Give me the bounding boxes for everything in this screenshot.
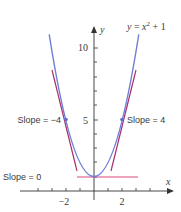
y-tick-label-5: 5 bbox=[83, 115, 88, 126]
x-axis bbox=[20, 188, 174, 194]
chart: 10 5 −2 2 y x y = x2 + 1 Slope = −4 Slop… bbox=[0, 0, 181, 212]
x-tick-label-neg2: −2 bbox=[59, 196, 70, 207]
annotation-slope-0: Slope = 0 bbox=[3, 172, 41, 182]
annotation-slope-neg4: Slope = −4 bbox=[17, 115, 61, 125]
y-tick-label-10: 10 bbox=[78, 42, 88, 53]
curve-equation-label: y = x2 + 1 bbox=[126, 20, 166, 32]
annotation-slope-4: Slope = 4 bbox=[127, 115, 165, 125]
tangent-point-2 bbox=[120, 118, 124, 122]
y-axis bbox=[91, 26, 98, 200]
y-axis-label: y bbox=[99, 24, 105, 35]
tangent-point-neg2 bbox=[64, 118, 68, 122]
x-tick-label-2: 2 bbox=[120, 196, 125, 207]
x-axis-label: x bbox=[165, 176, 171, 187]
